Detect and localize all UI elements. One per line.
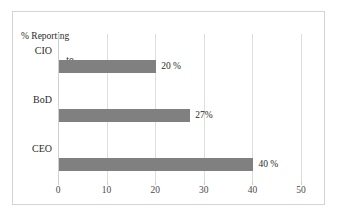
chart-frame: % Reporting to 0102030405020 %CIO27%BoD4… [12, 11, 325, 205]
category-label-cio: CIO [12, 45, 52, 56]
category-label-bod: BoD [12, 94, 52, 105]
x-axis-tick-label: 40 [248, 185, 258, 195]
bar-bod [59, 109, 190, 122]
x-axis-tick-label: 20 [150, 185, 160, 195]
x-axis-tick-label: 30 [199, 185, 209, 195]
bar-value-label: 27% [195, 110, 212, 120]
chart-container: % Reporting to 0102030405020 %CIO27%BoD4… [0, 0, 340, 219]
category-label-ceo: CEO [12, 143, 52, 154]
bar-cio [59, 60, 156, 73]
plot-area: 0102030405020 %CIO27%BoD40 %CEO [58, 34, 301, 181]
bar-value-label: 40 % [258, 159, 278, 169]
x-axis-tick-label: 0 [56, 185, 61, 195]
x-axis-tick-label: 50 [296, 185, 306, 195]
gridline-x-50 [301, 34, 302, 181]
bar-ceo [59, 158, 253, 171]
bar-value-label: 20 % [161, 61, 181, 71]
x-axis-tick-label: 10 [102, 185, 112, 195]
